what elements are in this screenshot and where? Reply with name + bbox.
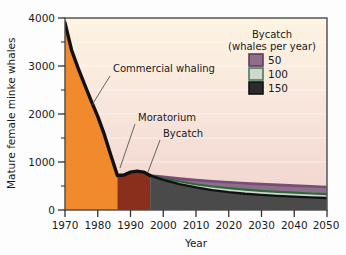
y-tick-label-4000: 4000 bbox=[28, 12, 55, 24]
region-moratorium bbox=[117, 171, 150, 210]
legend-label-100: 100 bbox=[268, 68, 288, 80]
legend-swatch-150 bbox=[249, 82, 263, 94]
annotation-commercial-whaling: Commercial whaling bbox=[113, 63, 215, 74]
whale-population-chart: Commercial whaling Moratorium Bycatch 40… bbox=[0, 0, 346, 255]
x-tick-label-1990: 1990 bbox=[117, 219, 144, 231]
legend-swatch-100 bbox=[249, 68, 263, 80]
x-tick-label-1980: 1980 bbox=[84, 219, 111, 231]
legend-title-line1: Bycatch bbox=[252, 29, 292, 40]
y-tick-label-1000: 1000 bbox=[28, 156, 55, 168]
x-tick-label-2030: 2030 bbox=[248, 219, 275, 231]
y-tick-label-0: 0 bbox=[48, 204, 55, 216]
legend-label-150: 150 bbox=[268, 82, 288, 94]
x-axis-title: Year bbox=[184, 237, 208, 249]
x-tick-label-2040: 2040 bbox=[281, 219, 308, 231]
x-tick-label-1970: 1970 bbox=[52, 219, 79, 231]
x-tick-label-2000: 2000 bbox=[150, 219, 177, 231]
legend-label-50: 50 bbox=[268, 54, 281, 66]
chart-figure: Commercial whaling Moratorium Bycatch 40… bbox=[0, 0, 346, 255]
y-axis-title: Mature female minke whales bbox=[5, 37, 17, 189]
x-tick-label-2020: 2020 bbox=[215, 219, 242, 231]
annotation-bycatch: Bycatch bbox=[163, 128, 203, 139]
legend-title-line2: (whales per year) bbox=[228, 41, 316, 52]
annotation-moratorium: Moratorium bbox=[138, 112, 196, 123]
y-tick-label-3000: 3000 bbox=[28, 60, 55, 72]
x-tick-label-2010: 2010 bbox=[183, 219, 210, 231]
legend-swatch-50 bbox=[249, 54, 263, 66]
legend-entry-100[interactable]: 100 bbox=[249, 68, 288, 80]
y-tick-label-2000: 2000 bbox=[28, 108, 55, 120]
legend-entry-150[interactable]: 150 bbox=[249, 82, 288, 94]
x-tick-label-2050: 2050 bbox=[313, 219, 340, 231]
